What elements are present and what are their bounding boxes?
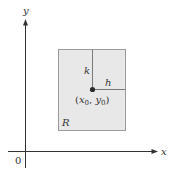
region-label: R	[61, 117, 70, 128]
x-axis-label: x	[161, 146, 167, 157]
point-marker	[90, 87, 95, 92]
k-label: k	[84, 65, 90, 76]
y-axis-arrow-icon	[23, 19, 28, 26]
h-label: h	[105, 77, 111, 88]
diagram-canvas: y x 0 R k h (x0, y0)	[0, 0, 178, 176]
origin-label: 0	[15, 155, 21, 166]
y-axis-label: y	[22, 5, 29, 16]
x-axis-arrow-icon	[152, 149, 159, 154]
